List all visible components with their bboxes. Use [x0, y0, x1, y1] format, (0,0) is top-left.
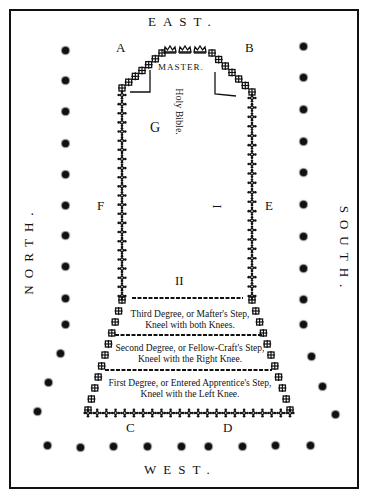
ornament-icon [117, 191, 126, 200]
ornament-icon [117, 100, 126, 109]
ornament-icon [247, 282, 256, 291]
ornament-icon [108, 329, 116, 337]
candle-dot [300, 321, 307, 328]
candle-dot [77, 444, 84, 451]
candle-dot [308, 353, 315, 360]
ornament-icon [98, 362, 106, 370]
candle-dot [62, 140, 69, 147]
ornament-icon [247, 103, 256, 112]
crown-icon [194, 46, 206, 53]
candle-dot [62, 77, 69, 84]
ornament-icon [247, 254, 256, 263]
ornament-icon [247, 244, 256, 253]
candle-dot [300, 265, 307, 272]
ornament-icon [117, 273, 126, 282]
ornament-icon [117, 154, 126, 163]
ornament-icon [117, 237, 126, 246]
ornament-icon [278, 384, 286, 392]
ornament-icon [247, 273, 256, 282]
candle-dot [307, 442, 314, 449]
ornament-icon [228, 69, 236, 77]
ornament-icon [252, 307, 260, 315]
candle-dot [300, 74, 307, 81]
ornament-icon [131, 72, 139, 80]
ornament-icon [212, 408, 221, 417]
ornament-icon [235, 75, 243, 83]
ornament-icon [247, 141, 256, 150]
ornament-icon [148, 408, 157, 417]
candle-dot [62, 202, 69, 209]
ornament-icon [117, 218, 126, 227]
ornament-border [83, 49, 294, 418]
ornament-icon [276, 408, 285, 417]
ornament-icon [221, 62, 229, 70]
ornament-icon [115, 307, 123, 315]
ornament-icon [117, 282, 126, 291]
ornament-icon [138, 67, 146, 75]
ornament-icon [175, 408, 184, 417]
ornament-icon [117, 227, 126, 236]
ornament-icon [247, 197, 256, 206]
ornament-icon [247, 150, 256, 159]
ornament-icon [117, 264, 126, 273]
ornament-icon [247, 159, 256, 168]
candle-dot [57, 350, 64, 357]
ornament-icon [93, 408, 102, 417]
ornament-icon [117, 127, 126, 136]
candle-dot [300, 106, 307, 113]
ornament-icon [267, 408, 276, 417]
candle-dot [332, 411, 339, 418]
candle-dot [144, 443, 151, 450]
candle-dot [62, 321, 69, 328]
ornament-icon [247, 207, 256, 216]
ornament-icon [166, 408, 175, 417]
ornament-icon [203, 408, 212, 417]
ornament-icon [215, 56, 223, 64]
candle-dot [300, 138, 307, 145]
lodge-floor-diagram [0, 0, 370, 500]
ornament-icon [117, 109, 126, 118]
ornament-icon [247, 263, 256, 272]
candle-dot [62, 295, 69, 302]
ornament-icon [247, 188, 256, 197]
ornament-icon [117, 200, 126, 209]
candle-dot [62, 47, 69, 54]
ornament-icon [129, 408, 138, 417]
ornament-icon [247, 131, 256, 140]
ornament-icon [111, 408, 120, 417]
ornament-icon [145, 61, 153, 69]
ornament-icon [104, 340, 112, 348]
candle-dot [34, 408, 41, 415]
ornament-icon [117, 90, 126, 99]
ornament-icon [94, 373, 102, 381]
candle-dot [300, 43, 307, 50]
ornament-icon [247, 178, 256, 187]
ornament-icon [275, 373, 283, 381]
ornament-icon [102, 408, 111, 417]
candle-dot [110, 443, 117, 450]
ornament-icon [241, 82, 249, 90]
ornament-icon [247, 235, 256, 244]
ornament-icon [263, 340, 271, 348]
ornament-icon [247, 169, 256, 178]
candle-dot [62, 108, 69, 115]
candle-dot [300, 296, 307, 303]
candle-dot [45, 379, 52, 386]
ornament-icon [247, 112, 256, 121]
ornament-icon [247, 122, 256, 131]
ornament-icon [125, 78, 133, 86]
candle-dot [300, 233, 307, 240]
ornament-icon [117, 255, 126, 264]
ornament-icon [117, 182, 126, 191]
candle-dot [178, 443, 185, 450]
crown-icon [179, 46, 191, 53]
crown-icon [164, 46, 176, 53]
candle-dot [62, 232, 69, 239]
ornament-icon [194, 408, 203, 417]
ornament-icon [91, 384, 99, 392]
ornament-icon [230, 408, 239, 417]
ornament-icon [221, 408, 230, 417]
candle-dot [62, 171, 69, 178]
ornament-icon [117, 209, 126, 218]
ornament-icon [208, 49, 216, 57]
